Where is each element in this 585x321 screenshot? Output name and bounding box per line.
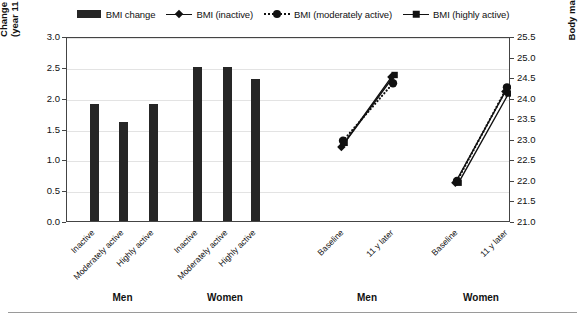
legend-item-bmi-inactive: BMI (inactive) [166,9,253,20]
legend-item-bmi-change: BMI change [76,9,156,20]
left-tick-label: 0.5 [30,185,60,196]
data-point-marker [503,83,511,91]
left-axis-title-line1: Change in BMI (Δ kg/m²) [0,0,9,62]
group-label: Men [83,292,163,303]
group-label: Women [441,292,521,303]
bar-swatch-icon [76,9,102,20]
solid-line-diamond-icon [166,9,192,20]
group-label: Men [327,292,407,303]
left-axis-title: Change in BMI (Δ kg/m²) (year 11 minus b… [0,0,20,62]
legend-item-bmi-moderately-active: BMI (moderately active) [264,9,392,20]
group-label: Women [185,292,265,303]
dotted-line-circle-icon [264,9,290,20]
data-point-marker [455,180,461,186]
right-axis-title: Body mass index (BMI) (kg/m²) [566,0,577,56]
right-tick-label: 24.0 [517,93,549,104]
left-tick-label: 3.0 [30,31,60,42]
footer-rule [8,312,577,313]
plot-area [66,37,510,222]
legend-label: BMI (moderately active) [294,9,392,20]
line-series [67,38,511,223]
data-point-marker [391,72,397,78]
data-point-marker [341,140,347,146]
right-tick-label: 21.5 [517,195,549,206]
legend-label: BMI (highly active) [433,9,509,20]
right-tick-label: 21.0 [517,216,549,227]
right-tick-label: 24.5 [517,72,549,83]
left-tick-label: 1.5 [30,124,60,135]
left-tick-mark [62,222,66,223]
solid-line-square-icon [403,9,429,20]
left-tick-label: 2.5 [30,62,60,73]
right-tick-label: 25.0 [517,52,549,63]
left-tick-label: 2.0 [30,93,60,104]
line-segment [345,75,395,143]
right-tick-label: 23.0 [517,134,549,145]
data-point-marker [505,90,511,96]
left-axis-title-line2: (year 11 minus baseline) [9,0,20,62]
chart-figure: BMI change BMI (inactive) BMI (moderatel… [0,0,585,321]
right-tick-label: 22.5 [517,154,549,165]
right-tick-label: 25.5 [517,31,549,42]
right-tick-label: 23.5 [517,113,549,124]
line-segment [459,94,509,183]
legend-label: BMI (inactive) [196,9,253,20]
legend-item-bmi-highly-active: BMI (highly active) [403,9,509,20]
right-tick-label: 22.0 [517,175,549,186]
legend-label: BMI change [106,9,156,20]
left-tick-label: 0.0 [30,216,60,227]
chart-legend: BMI change BMI (inactive) BMI (moderatel… [0,4,585,24]
left-tick-label: 1.0 [30,154,60,165]
